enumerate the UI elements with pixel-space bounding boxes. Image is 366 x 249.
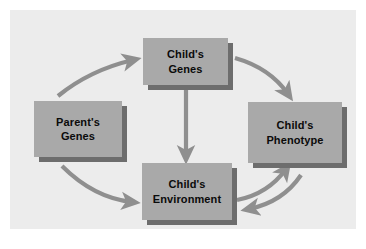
diagram-panel: Child's Genes Parent's Genes Child's Phe…	[10, 10, 356, 229]
node-childs-genes: Child's Genes	[143, 38, 228, 85]
node-childs-phenotype: Child's Phenotype	[248, 102, 342, 163]
node-parents-genes: Parent's Genes	[34, 101, 122, 157]
node-face: Parent's Genes	[34, 101, 122, 157]
node-label-childs-genes: Child's Genes	[164, 47, 207, 75]
node-face: Child's Environment	[142, 163, 232, 220]
arrow-childs-genes-to-childs-phenotype	[235, 58, 288, 94]
arrow-parents-genes-to-childs-genes	[58, 60, 133, 96]
node-label-parents-genes: Parent's Genes	[53, 115, 103, 143]
figure-root: Child's Genes Parent's Genes Child's Phe…	[0, 0, 366, 249]
node-face: Child's Genes	[143, 38, 228, 85]
node-childs-environment: Child's Environment	[142, 163, 232, 220]
node-label-childs-phenotype: Child's Phenotype	[263, 118, 326, 146]
node-face: Child's Phenotype	[248, 102, 342, 163]
node-label-childs-environment: Child's Environment	[150, 177, 224, 205]
arrow-parents-genes-to-childs-environment	[62, 166, 132, 202]
